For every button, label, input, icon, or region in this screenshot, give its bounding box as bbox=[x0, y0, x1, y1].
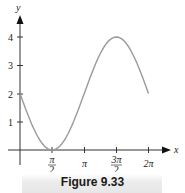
curve-line bbox=[20, 37, 149, 150]
x-axis-label: x bbox=[173, 144, 179, 155]
y-tick-4: 4 bbox=[8, 32, 13, 43]
y-tick-1: 1 bbox=[8, 117, 13, 128]
x-tick-pi: π bbox=[82, 158, 88, 169]
x-tick-2pi: 2π bbox=[143, 158, 154, 169]
y-axis-label: y bbox=[15, 2, 21, 13]
x-ticks: π 2 π 3π 2 2π bbox=[48, 147, 154, 172]
y-tick-2: 2 bbox=[8, 89, 13, 100]
x-tick-pi-half-denominator: 2 bbox=[50, 164, 55, 172]
function-plot: y x 1 2 3 4 π 2 π 3π 2 2π bbox=[0, 0, 185, 172]
x-tick-3pi-half-denominator: 2 bbox=[114, 164, 119, 172]
y-tick-3: 3 bbox=[8, 60, 13, 71]
y-axis-arrow-icon bbox=[17, 15, 24, 24]
figure-caption: Figure 9.33 bbox=[0, 175, 185, 189]
x-axis-arrow-icon bbox=[162, 147, 171, 154]
y-ticks: 1 2 3 4 bbox=[8, 32, 23, 128]
